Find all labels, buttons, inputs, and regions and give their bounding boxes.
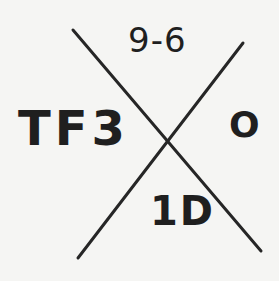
top-quadrant-label: 9-6: [128, 20, 187, 60]
scanned-page: 9-6 TF3 O 1D: [0, 0, 279, 281]
right-quadrant-label: O: [229, 104, 260, 145]
bottom-quadrant-label: 1D: [150, 188, 215, 234]
left-quadrant-label: TF3: [18, 100, 129, 156]
